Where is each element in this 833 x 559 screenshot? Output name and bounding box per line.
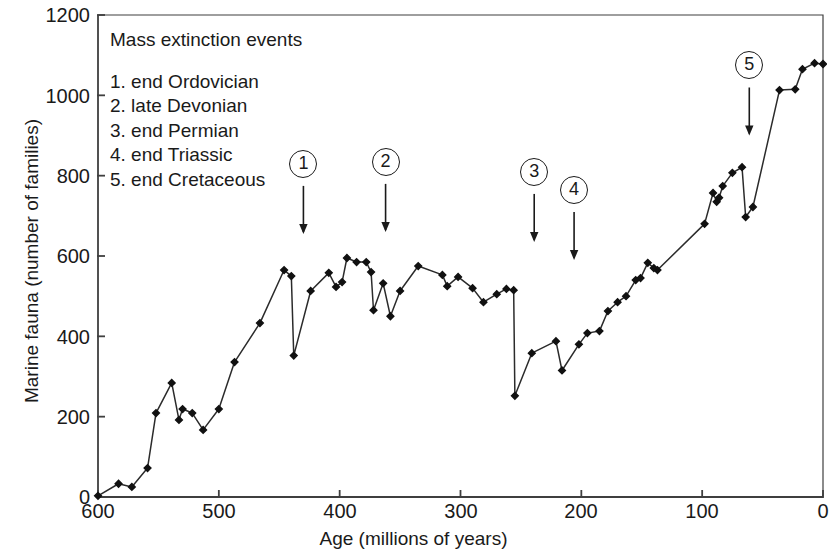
- chart-figure: Marine fauna (number of families) Age (m…: [0, 0, 827, 559]
- callout-arrow-5: [0, 0, 827, 559]
